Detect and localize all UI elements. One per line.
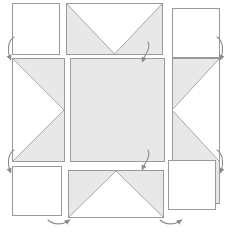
block-bottom-left-outline <box>13 167 62 216</box>
block-top-left <box>13 4 60 55</box>
diagram-canvas <box>0 0 231 233</box>
quilt-assembly-diagram <box>0 0 231 233</box>
block-center <box>71 59 165 162</box>
block-bottom-left <box>13 167 62 216</box>
block-top-center <box>67 4 163 55</box>
block-bottom-right-outline <box>169 161 216 210</box>
block-bottom-center <box>69 171 164 218</box>
block-top-right-outline <box>173 9 220 58</box>
block-top-left-outline <box>13 4 60 55</box>
block-center-outline <box>71 59 165 162</box>
arrow-bottom-left <box>48 220 68 224</box>
block-top-right <box>173 9 220 58</box>
block-middle-left <box>13 59 65 162</box>
arrow-bottom-right <box>160 220 180 224</box>
block-middle-right <box>169 59 220 210</box>
